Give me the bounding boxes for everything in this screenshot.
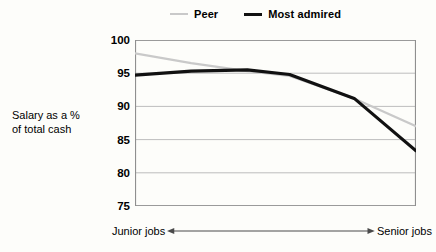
x-axis-label-left: Junior jobs bbox=[112, 225, 165, 237]
y-tick-label-75: 75 bbox=[96, 200, 130, 212]
salary-percent-line-chart: Peer Most admired Salary as a % of total… bbox=[0, 0, 436, 252]
plot-area bbox=[135, 40, 416, 206]
y-tick-label-85: 85 bbox=[96, 134, 130, 146]
legend-label-peer: Peer bbox=[194, 8, 218, 20]
y-axis-title: Salary as a % of total cash bbox=[12, 108, 128, 136]
axis-frame bbox=[136, 40, 416, 206]
x-axis-label-right: Senior jobs bbox=[377, 225, 432, 237]
chart-legend: Peer Most admired bbox=[170, 5, 341, 23]
legend-line-swatch-most-admired-icon bbox=[244, 13, 262, 16]
legend-item-peer[interactable]: Peer bbox=[170, 8, 218, 20]
y-tick-label-90: 90 bbox=[96, 100, 130, 112]
plot-svg bbox=[135, 40, 416, 206]
series-line-most-admired bbox=[135, 70, 416, 151]
gridlines bbox=[135, 41, 416, 206]
y-tick-label-100: 100 bbox=[96, 34, 130, 46]
y-tick-label-95: 95 bbox=[96, 67, 130, 79]
x-axis-direction-row: Junior jobs Senior jobs bbox=[112, 222, 432, 240]
y-tick-label-80: 80 bbox=[96, 167, 130, 179]
legend-line-swatch-peer-icon bbox=[170, 13, 188, 15]
legend-item-most-admired[interactable]: Most admired bbox=[244, 8, 341, 20]
double-arrow-icon bbox=[167, 225, 375, 237]
legend-label-most-admired: Most admired bbox=[268, 8, 341, 20]
